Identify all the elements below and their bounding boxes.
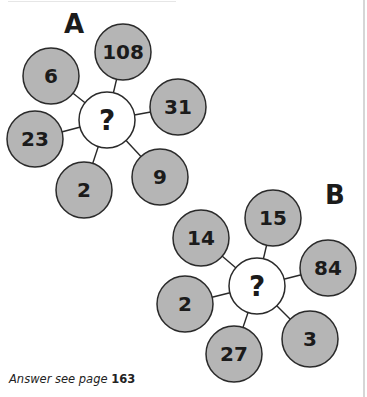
number-value: 2 [77,178,91,202]
number-value: 3 [303,327,317,351]
question-circle: ? [229,258,285,314]
number-circle: 108 [95,24,151,80]
puzzle-a: 1083192236? [7,24,206,218]
number-value: 9 [153,165,167,189]
number-value: 15 [259,206,287,230]
number-value: 84 [314,256,342,280]
question-mark: ? [249,270,265,303]
number-circle: 2 [157,276,213,332]
puzzle-diagrams: 1083192236?1584327214? [0,0,367,397]
number-circle: 9 [132,149,188,205]
number-value: 2 [178,292,192,316]
answer-page-number: 163 [111,372,135,386]
question-mark: ? [99,104,115,137]
number-circle: 84 [300,240,356,296]
number-circle: 31 [150,79,206,135]
number-circle: 23 [7,111,63,167]
answer-reference: Answer see page 163 [9,372,135,386]
number-circle: 27 [206,326,262,382]
number-circle: 2 [56,162,112,218]
number-value: 14 [187,226,215,250]
number-circle: 14 [173,210,229,266]
puzzle-a-label: A [64,9,84,39]
number-value: 27 [220,342,248,366]
answer-prefix: Answer see page [9,372,111,386]
number-circle: 3 [282,311,338,367]
puzzle-b-label: B [325,180,345,210]
number-value: 6 [44,64,58,88]
number-circle: 15 [245,190,301,246]
puzzle-b: 1584327214? [157,190,356,382]
number-circle: 6 [23,48,79,104]
number-value: 108 [102,40,144,64]
number-value: 31 [164,95,192,119]
number-value: 23 [21,127,49,151]
question-circle: ? [79,92,135,148]
